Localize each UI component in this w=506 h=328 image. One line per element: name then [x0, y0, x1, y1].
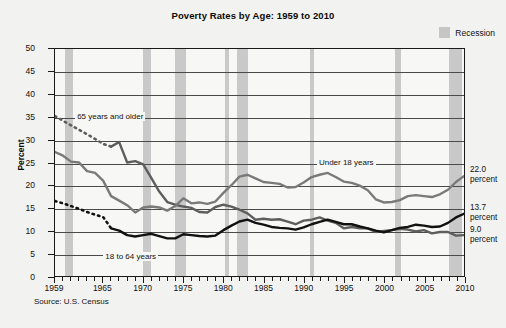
end-value: 9.0	[470, 225, 481, 234]
x-tick-label: 2005	[415, 283, 434, 293]
legend-label-recession: Recession	[455, 28, 495, 38]
chart-title: Poverty Rates by Age: 1959 to 2010	[0, 10, 506, 21]
poverty-rates-chart-figure: Poverty Rates by Age: 1959 to 2010 Reces…	[0, 0, 506, 328]
x-tick-mark-minor	[296, 277, 297, 281]
series-annotation: 18 to 64 years	[103, 252, 158, 261]
x-tick-mark-minor	[94, 277, 95, 281]
x-tick-mark-minor	[159, 277, 160, 281]
end-value: 22.0	[470, 165, 486, 174]
series-line	[111, 214, 464, 239]
x-tick-label: 1975	[173, 283, 192, 293]
x-tick-mark-minor	[239, 277, 240, 281]
series-end-label: 13.7percent	[470, 203, 497, 223]
y-tick-label: 25	[0, 158, 35, 168]
x-tick-mark-minor	[433, 277, 434, 281]
x-tick-mark-minor	[328, 277, 329, 281]
x-tick-label: 2000	[375, 283, 394, 293]
x-tick-mark-minor	[336, 277, 337, 281]
x-tick-label: 1965	[93, 283, 112, 293]
series-annotation: 65 years and older	[75, 112, 145, 121]
x-tick-mark-minor	[312, 277, 313, 281]
series-line	[111, 142, 464, 236]
x-tick-mark-minor	[288, 277, 289, 281]
x-tick-mark-minor	[199, 277, 200, 281]
x-tick-mark-minor	[62, 277, 63, 281]
series-end-label: 9.0percent	[470, 225, 497, 245]
x-tick-mark-minor	[352, 277, 353, 281]
x-tick-mark-minor	[368, 277, 369, 281]
x-tick-mark-minor	[127, 277, 128, 281]
y-tick-label: 20	[0, 180, 35, 190]
x-tick-mark-minor	[86, 277, 87, 281]
series-line	[55, 152, 464, 212]
y-tick-label: 35	[0, 112, 35, 122]
source-note: Source: U.S. Census	[34, 297, 109, 306]
x-tick-mark-minor	[118, 277, 119, 281]
y-tick-label: 30	[0, 135, 35, 145]
x-tick-mark-minor	[78, 277, 79, 281]
x-tick-mark-minor	[376, 277, 377, 281]
x-tick-mark-minor	[449, 277, 450, 281]
x-tick-label: 1995	[335, 283, 354, 293]
y-tick-label: 50	[0, 43, 35, 53]
x-tick-mark-minor	[231, 277, 232, 281]
x-tick-mark-minor	[417, 277, 418, 281]
plot-area: 65 years and olderUnder 18 years18 to 64…	[54, 48, 465, 277]
x-tick-mark-minor	[175, 277, 176, 281]
y-tick-label: 15	[0, 203, 35, 213]
x-tick-mark-minor	[320, 277, 321, 281]
x-tick-mark-minor	[70, 277, 71, 281]
x-tick-mark-minor	[135, 277, 136, 281]
x-tick-mark-minor	[151, 277, 152, 281]
x-tick-mark-minor	[167, 277, 168, 281]
recession-swatch-icon	[439, 27, 450, 38]
y-tick-label: 5	[0, 249, 35, 259]
x-tick-label: 1990	[294, 283, 313, 293]
x-tick-mark-minor	[207, 277, 208, 281]
x-tick-label: 2010	[456, 283, 475, 293]
end-unit: percent	[470, 213, 497, 222]
x-tick-label: 1959	[45, 283, 64, 293]
series-end-label: 22.0percent	[470, 165, 497, 185]
x-tick-mark-minor	[401, 277, 402, 281]
series-annotation: Under 18 years	[317, 158, 376, 167]
end-unit: percent	[470, 175, 497, 184]
x-tick-mark-minor	[409, 277, 410, 281]
x-tick-label: 1970	[133, 283, 152, 293]
y-tick-label: 45	[0, 66, 35, 76]
x-tick-mark-minor	[392, 277, 393, 281]
y-tick-label: 10	[0, 226, 35, 236]
end-value: 13.7	[470, 203, 486, 212]
x-tick-mark-minor	[191, 277, 192, 281]
legend-recession: Recession	[439, 27, 495, 38]
x-tick-mark-minor	[255, 277, 256, 281]
x-tick-label: 1985	[254, 283, 273, 293]
x-tick-mark-minor	[110, 277, 111, 281]
series-lines	[55, 49, 464, 276]
y-tick-label: 40	[0, 89, 35, 99]
x-tick-label: 1980	[214, 283, 233, 293]
x-tick-mark-minor	[280, 277, 281, 281]
x-tick-mark-minor	[272, 277, 273, 281]
series-line	[55, 201, 111, 228]
x-tick-mark-minor	[457, 277, 458, 281]
end-unit: percent	[470, 235, 497, 244]
x-tick-mark-minor	[441, 277, 442, 281]
x-tick-mark-minor	[215, 277, 216, 281]
x-tick-mark-minor	[247, 277, 248, 281]
y-tick-label: 0	[0, 272, 35, 282]
x-tick-mark-minor	[360, 277, 361, 281]
